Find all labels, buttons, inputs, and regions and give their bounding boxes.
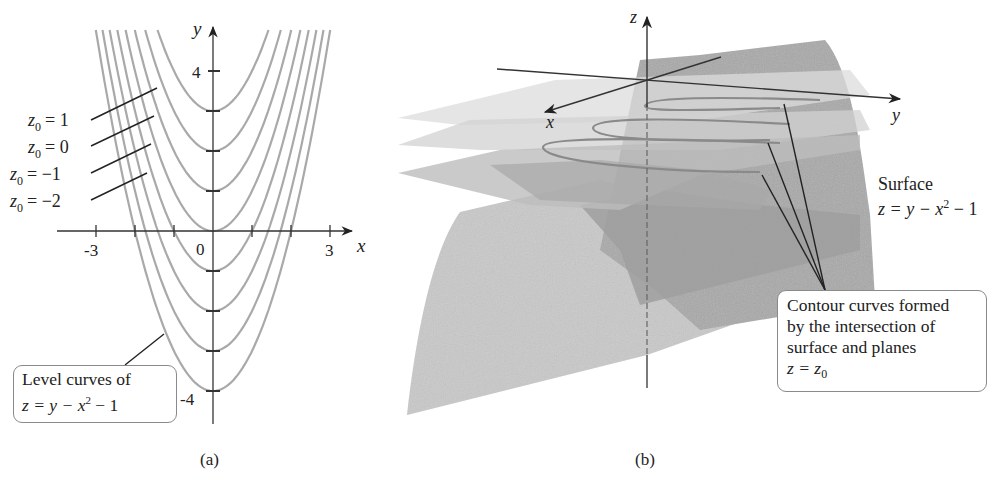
panel-b-caption: (b) [635, 450, 655, 469]
contour-callout-line3: surface and planes [787, 337, 977, 358]
level-label-z0-1: z0= 1 [27, 110, 69, 134]
level-curves-callout-leader [125, 334, 164, 365]
level-curves-callout: Level curves of z = y − x2 − 1 [13, 365, 177, 423]
y-tick-label-4: 4 [192, 63, 201, 82]
z-axis-label-3d: z [629, 7, 637, 27]
svg-text:z0= −1: z0= −1 [9, 164, 61, 188]
svg-text:z0= 0: z0= 0 [27, 137, 69, 161]
svg-text:z0= 1: z0= 1 [27, 110, 69, 134]
y-tick-label-neg4: -4 [180, 390, 195, 409]
contour-callout-line4: z = z0 [787, 358, 977, 385]
level-label-z0-neg1: z0= −1 [9, 164, 61, 188]
y-axis-label-3d: y [890, 105, 900, 125]
level-curves-callout-line2: z = y − x2 − 1 [22, 390, 168, 416]
contour-callout-line1: Contour curves formed [787, 295, 977, 316]
surface-label-title: Surface [878, 174, 933, 194]
panel-a-caption: (a) [200, 450, 219, 469]
x-axis-label: x [356, 235, 366, 256]
surface-label-equation: z = y − x2 − 1 [877, 197, 977, 219]
x-tick-label-neg3: -3 [84, 241, 98, 260]
level-curves-callout-line1: Level curves of [22, 369, 168, 390]
level-label-z0-neg2: z0= −2 [9, 191, 61, 215]
contour-callout-line2: by the intersection of [787, 316, 977, 337]
svg-text:z0= −2: z0= −2 [9, 191, 61, 215]
panel-b-surface-3d: z x y Surface z = y − x2 − 1 (b) [398, 7, 977, 469]
x-tick-label-0: 0 [196, 240, 205, 259]
contour-curves-callout: Contour curves formed by the intersectio… [777, 290, 987, 392]
y-axis-label: y [191, 18, 202, 39]
x-axis-label-3d: x [545, 112, 554, 132]
x-tick-label-3: 3 [325, 241, 334, 260]
level-label-z0-0: z0= 0 [27, 137, 69, 161]
